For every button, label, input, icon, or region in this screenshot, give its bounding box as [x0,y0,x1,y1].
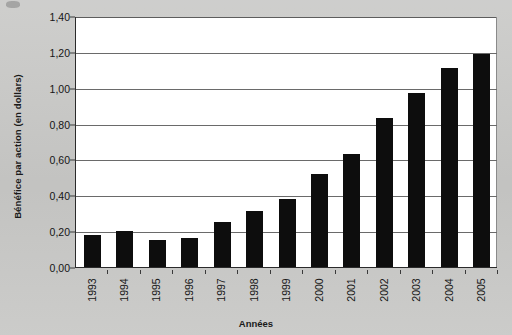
plot-frame-right [496,17,497,267]
y-axis-title: Bénéfice par action (en dollars) [4,36,30,256]
y-axis-tick-mark [70,196,75,197]
bar [343,154,360,267]
x-axis-tick-label: 1993 [85,278,97,301]
bar [408,93,425,267]
y-axis-tick-label: 0,80 [30,119,70,130]
chart-figure: Bénéfice par action (en dollars) 0,000,2… [0,0,512,335]
bar [149,240,166,267]
x-axis-tick-label: 1994 [118,278,130,301]
x-axis-tick-labels: 1993199419951996199719981999200020012002… [75,270,497,316]
y-axis-tick-label: 1,00 [30,83,70,94]
x-axis-tick-mark [497,270,498,274]
gridline [76,89,497,90]
bar [181,238,198,267]
y-axis-tick-labels: 0,000,200,400,600,801,001,201,40 [30,17,70,268]
bar [473,54,490,267]
y-axis-tick-mark [70,268,75,269]
y-axis-tick-mark [70,160,75,161]
x-axis-tick-label: 1995 [150,278,162,301]
gridline [76,196,497,197]
x-axis-tick-label: 2003 [410,278,422,301]
x-axis-tick-label: 2004 [442,278,454,301]
x-axis-tick-label: 2001 [345,278,357,301]
bar [246,211,263,267]
x-axis-tick-label: 1999 [280,278,292,301]
bar [441,68,458,267]
scan-artifact [6,1,20,8]
bar [376,118,393,267]
x-axis-tick: 2005 [461,270,501,298]
y-axis-tick-mark [70,52,75,53]
y-axis-tick-mark [70,17,75,18]
y-axis-tick-label: 1,20 [30,48,70,59]
y-axis-tick-label: 0,00 [30,263,70,274]
y-axis-tick-mark [70,88,75,89]
gridline [76,53,497,54]
x-axis-tick-label: 2000 [312,278,324,301]
y-axis-tick-label: 0,60 [30,155,70,166]
bar [116,231,133,267]
x-axis-tick-label: 1997 [215,278,227,301]
gridline [76,125,497,126]
y-axis-tick-mark [70,124,75,125]
x-axis-tick-label: 2002 [377,278,389,301]
y-axis-tick-label: 0,20 [30,227,70,238]
y-axis-tick-label: 0,40 [30,191,70,202]
plot-area [75,17,497,268]
bar [311,174,328,267]
bar [279,199,296,267]
x-axis-title: Années [0,318,512,329]
gridline [76,160,497,161]
y-axis-tick-mark [70,232,75,233]
x-axis-tick-label: 1996 [183,278,195,301]
x-axis-tick-label: 2005 [475,278,487,301]
y-axis-tick-label: 1,40 [30,12,70,23]
bar [84,235,101,267]
plot-frame-top [76,17,497,18]
y-axis-title-text: Bénéfice par action (en dollars) [12,74,23,219]
bar [214,222,231,267]
x-axis-tick-label: 1998 [248,278,260,301]
